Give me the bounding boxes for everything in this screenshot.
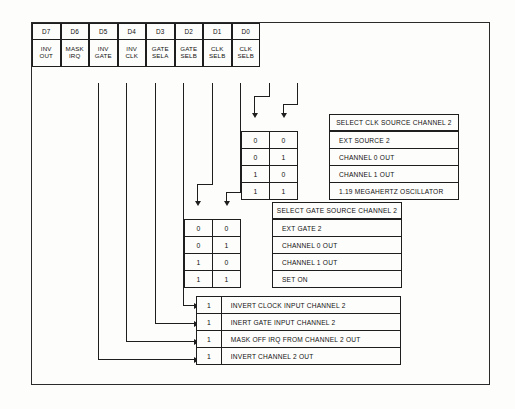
connector-d7-vertical <box>98 83 99 360</box>
register-bit-name-d6: D6 <box>61 23 90 40</box>
connector-d1-horizontal <box>254 96 269 97</box>
bit-value-high: 0 <box>241 131 270 149</box>
flag-table-row: 1INERT GATE INPUT CHANNEL 2 <box>196 313 401 331</box>
flag-bit-value: 1 <box>196 296 222 314</box>
source-description: CHANNEL 1 OUT <box>329 165 459 183</box>
register-bit-d4: D4INVCLK <box>118 23 147 67</box>
bit-value-low: 1 <box>212 270 241 288</box>
clk-table-row: 10CHANNEL 1 OUT <box>241 165 429 183</box>
flag-description: INERT GATE INPUT CHANNEL 2 <box>221 313 401 331</box>
gate-table-row: 11SET ON <box>184 270 372 288</box>
register-bit-name-d5: D5 <box>89 23 118 40</box>
register-bit-function-line2: SELB <box>237 53 254 60</box>
connector-d0-horizontal <box>283 104 298 105</box>
register-bit-d3: D3GATESELA <box>146 23 175 67</box>
gate-table-row: 01CHANNEL 0 OUT <box>184 236 372 254</box>
flag-bit-value: 1 <box>196 347 222 365</box>
register-bit-function-d1: CLKSELB <box>203 39 232 67</box>
connector-d7-horizontal <box>98 359 195 360</box>
connector-d1-arrow <box>252 113 258 118</box>
flag-description: INVERT CHANNEL 2 OUT <box>221 347 401 365</box>
register-bit-d5: D5INVGATE <box>89 23 118 67</box>
bit-value-low: 0 <box>212 219 241 237</box>
register-bit-d6: D6MASKIRQ <box>61 23 90 67</box>
bit-value-low: 0 <box>269 165 298 183</box>
clk-table-row: 111.19 MEGAHERTZ OSCILLATOR <box>241 182 429 200</box>
clk-table-title: SELECT CLK SOURCE CHANNEL 2 <box>329 114 459 131</box>
connector-d0-vertical <box>297 83 298 105</box>
diagram-frame: D7INVOUTD6MASKIRQD5INVGATED4INVCLKD3GATE… <box>31 22 490 385</box>
connector-d2-arrow <box>224 201 230 206</box>
register-bit-function-d5: INVGATE <box>89 39 118 67</box>
register-bit-name-d0: D0 <box>232 23 261 40</box>
register-bit-function-line2: CLK <box>125 53 138 60</box>
connector-d1-drop <box>254 96 255 114</box>
connector-d5-horizontal <box>155 323 195 324</box>
bit-value-low: 1 <box>269 182 298 200</box>
bit-value-high: 1 <box>184 270 213 288</box>
source-description: CHANNEL 0 OUT <box>329 148 459 166</box>
flag-table-row: 1MASK OFF IRQ FROM CHANNEL 2 OUT <box>196 330 401 348</box>
register-bit-function-line2: SELB <box>180 53 197 60</box>
register-bit-d7: D7INVOUT <box>32 23 61 67</box>
flag-table-row: 1INVERT CLOCK INPUT CHANNEL 2 <box>196 296 401 314</box>
gate-table-row: 10CHANNEL 1 OUT <box>184 253 372 271</box>
connector-d3-arrow <box>195 201 201 206</box>
register-bit-d2: D2GATESELB <box>175 23 204 67</box>
source-description: SET ON <box>272 270 402 288</box>
register-bit-function-line2: GATE <box>95 53 112 60</box>
connector-d3-vertical <box>212 83 213 185</box>
register-bit-function-d3: GATESELA <box>146 39 175 67</box>
gate-table-row: 00EXT GATE 2 <box>184 219 372 237</box>
register-bit-function-d0: CLKSELB <box>232 39 261 67</box>
connector-d0-arrow <box>281 113 287 118</box>
register-bit-d1: D1CLKSELB <box>203 23 232 67</box>
bit-value-low: 0 <box>212 253 241 271</box>
bit-value-low: 1 <box>269 148 298 166</box>
control-register: D7INVOUTD6MASKIRQD5INVGATED4INVCLKD3GATE… <box>32 23 260 67</box>
connector-d3-drop <box>197 184 198 202</box>
flag-bit-value: 1 <box>196 313 222 331</box>
register-bit-function-line2: SELB <box>209 53 226 60</box>
bit-value-high: 1 <box>241 165 270 183</box>
register-bit-function-d2: GATESELB <box>175 39 204 67</box>
clk-table-row: 01CHANNEL 0 OUT <box>241 148 429 166</box>
register-bit-name-d3: D3 <box>146 23 175 40</box>
register-bit-name-d4: D4 <box>118 23 147 40</box>
register-bit-function-line2: OUT <box>39 53 53 60</box>
source-description: CHANNEL 0 OUT <box>272 236 402 254</box>
flag-description: MASK OFF IRQ FROM CHANNEL 2 OUT <box>221 330 401 348</box>
bit-value-high: 1 <box>184 253 213 271</box>
clk-table-row: 00EXT SOURCE 2 <box>241 131 429 149</box>
bit-value-low: 1 <box>212 236 241 254</box>
register-bit-name-d2: D2 <box>175 23 204 40</box>
bit-value-high: 0 <box>241 148 270 166</box>
register-bit-name-d1: D1 <box>203 23 232 40</box>
register-bit-function-line2: SELA <box>152 53 169 60</box>
register-bit-function-d7: INVOUT <box>32 39 61 67</box>
flag-table-row: 1INVERT CHANNEL 2 OUT <box>196 347 401 365</box>
register-bit-d0: D0CLKSELB <box>232 23 261 67</box>
connector-d6-horizontal <box>126 341 195 342</box>
connector-d3-horizontal <box>197 184 212 185</box>
connector-d2-horizontal <box>226 192 241 193</box>
flag-bit-value: 1 <box>196 330 222 348</box>
bit-value-high: 0 <box>184 219 213 237</box>
source-description: 1.19 MEGAHERTZ OSCILLATOR <box>329 182 459 200</box>
register-bit-name-d7: D7 <box>32 23 61 40</box>
source-description: CHANNEL 1 OUT <box>272 253 402 271</box>
connector-d5-vertical <box>155 83 156 324</box>
connector-d6-vertical <box>126 83 127 342</box>
bit-value-high: 0 <box>184 236 213 254</box>
gate-table-title: SELECT GATE SOURCE CHANNEL 2 <box>272 202 402 219</box>
register-bit-function-line2: IRQ <box>69 53 81 60</box>
flag-description: INVERT CLOCK INPUT CHANNEL 2 <box>221 296 401 314</box>
connector-d1-vertical <box>269 83 270 97</box>
source-description: EXT SOURCE 2 <box>329 131 459 149</box>
source-description: EXT GATE 2 <box>272 219 402 237</box>
bit-value-low: 0 <box>269 131 298 149</box>
register-bit-function-d6: MASKIRQ <box>61 39 90 67</box>
register-bit-function-d4: INVCLK <box>118 39 147 67</box>
bit-value-high: 1 <box>241 182 270 200</box>
